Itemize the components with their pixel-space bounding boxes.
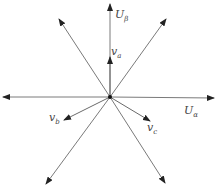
ray-120-line: [59, 19, 110, 97]
phase-vectors-group: [64, 57, 150, 121]
u-alpha-axis-line: [110, 97, 214, 98]
v-a-label: va: [111, 46, 121, 60]
axes-group: [3, 4, 214, 184]
origin-dot: [108, 95, 112, 99]
v-b-label: vb: [49, 112, 60, 126]
ray-240-line: [46, 97, 110, 184]
vector-drawing: [0, 0, 223, 194]
v-c-arrow: [110, 97, 150, 121]
u-beta-label: Uβ: [115, 9, 128, 23]
v-c-label: vc: [147, 122, 157, 136]
v-b-arrow: [64, 97, 110, 120]
u-alpha-label: Uα: [184, 105, 198, 119]
ray-300-line: [110, 97, 165, 183]
space-vector-diagram: Uβ va Uα vb vc: [0, 0, 223, 194]
